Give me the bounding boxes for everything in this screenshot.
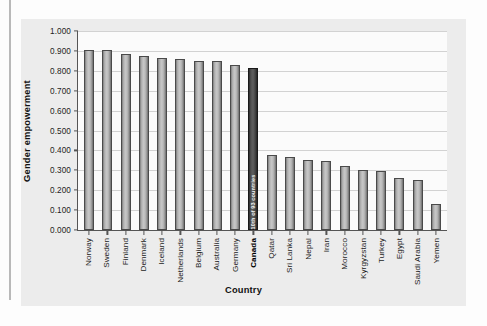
x-axis-tick-mark <box>253 230 254 235</box>
bar-annotation: 10th of 93 countries <box>250 175 256 230</box>
bar-slot <box>80 31 98 230</box>
x-axis-tick-mark <box>344 230 345 235</box>
bar-series: 10th of 93 countries <box>78 31 447 230</box>
y-axis-tick-label: 0.000 <box>50 226 71 235</box>
x-axis-tick-label: Belgium <box>193 238 202 268</box>
bar-slot: 10th of 93 countries <box>244 31 262 230</box>
bar-slot <box>153 31 171 230</box>
x-axis-tick-label: Nepal <box>303 238 312 260</box>
x-axis-tick-mark <box>125 230 126 235</box>
x-axis-tick-mark <box>399 230 400 235</box>
bar <box>285 157 295 230</box>
bar <box>194 61 204 230</box>
x-axis-tick-label: Denmark <box>139 238 148 272</box>
bar-slot <box>317 31 335 230</box>
x-axis-tick-label: Kyrgyzstan <box>358 238 367 279</box>
x-axis-tick-label: Germany <box>230 238 239 272</box>
bar-slot <box>354 31 372 230</box>
bar-highlighted: 10th of 93 countries <box>248 68 258 230</box>
bar <box>175 59 185 230</box>
x-axis-tick-label: Yemen <box>431 238 440 263</box>
y-axis-tick-label: 0.100 <box>50 206 71 215</box>
x-axis-tick-mark <box>162 230 163 235</box>
x-axis-tick-mark <box>198 230 199 235</box>
x-axis-tick-label: Qatar <box>267 238 276 259</box>
bar-slot <box>263 31 281 230</box>
bar <box>157 58 167 230</box>
x-axis-tick-label: Finland <box>120 238 129 265</box>
x-axis-tick-mark <box>362 230 363 235</box>
bar <box>102 50 112 230</box>
bar-slot <box>299 31 317 230</box>
x-axis-tick-label: Netherlands <box>175 238 184 283</box>
page-background: Gender empowerment 1.0000.9000.8000.7000… <box>0 0 487 326</box>
plot-area: 1.0000.9000.8000.7000.6000.5000.4000.300… <box>77 31 447 231</box>
bar <box>394 178 404 230</box>
bar-slot <box>98 31 116 230</box>
bar <box>212 61 222 230</box>
x-axis-tick-mark <box>143 230 144 235</box>
bar <box>340 166 350 230</box>
bar <box>321 161 331 230</box>
bar <box>230 65 240 230</box>
y-axis-tick-label: 0.900 <box>50 46 71 55</box>
plot-wrapper: 1.0000.9000.8000.7000.6000.5000.4000.300… <box>77 31 447 231</box>
bar <box>431 204 441 230</box>
x-axis-tick-mark <box>216 230 217 235</box>
x-axis-tick-mark <box>180 230 181 235</box>
chart-figure: Gender empowerment 1.0000.9000.8000.7000… <box>21 19 466 306</box>
bar-slot <box>226 31 244 230</box>
y-axis-tick-label: 0.600 <box>50 106 71 115</box>
bar-slot <box>281 31 299 230</box>
bar-slot <box>409 31 427 230</box>
x-axis-tick-label: Turkey <box>376 238 385 263</box>
bar-slot <box>135 31 153 230</box>
x-axis-tick-label: Norway <box>84 238 93 266</box>
bar-slot <box>427 31 445 230</box>
bar-slot <box>117 31 135 230</box>
x-axis-tick-mark <box>417 230 418 235</box>
bar <box>121 54 131 231</box>
x-axis-tick-mark <box>235 230 236 235</box>
x-axis-tick-mark <box>326 230 327 235</box>
x-axis-tick-label: Sri Lanka <box>285 238 294 273</box>
x-axis-tick-mark <box>271 230 272 235</box>
bar-slot <box>336 31 354 230</box>
x-axis-tick-label: Egypt <box>395 238 404 259</box>
x-axis-tick-label: Canada <box>248 238 257 268</box>
x-axis-tick-label: Australia <box>212 238 221 270</box>
x-axis-tick-mark <box>107 230 108 235</box>
bar <box>139 56 149 230</box>
x-axis-tick-mark <box>381 230 382 235</box>
bar <box>376 171 386 230</box>
x-axis-tick-label: Iran <box>322 238 331 252</box>
x-axis-tick-mark <box>289 230 290 235</box>
x-axis-tick-label: Saudi Arabia <box>413 238 422 285</box>
x-axis-tick-label: Sweden <box>102 238 111 268</box>
y-axis-tick-label: 0.500 <box>50 126 71 135</box>
bar <box>84 50 94 230</box>
bar-slot <box>190 31 208 230</box>
y-axis-tick-label: 0.200 <box>50 186 71 195</box>
bar <box>358 170 368 230</box>
y-axis-tick-label: 0.700 <box>50 86 71 95</box>
bar-slot <box>390 31 408 230</box>
x-axis-tick-mark <box>308 230 309 235</box>
bar <box>413 180 423 230</box>
y-axis-title: Gender empowerment <box>22 80 32 182</box>
page-left-rule <box>9 0 11 300</box>
bar-slot <box>208 31 226 230</box>
x-axis-tick-mark <box>435 230 436 235</box>
bar-slot <box>171 31 189 230</box>
x-axis-tick-label: Iceland <box>157 238 166 265</box>
y-axis-tick-label: 0.400 <box>50 146 71 155</box>
x-axis-tick-label: Morocco <box>340 238 349 270</box>
x-axis-title: Country <box>21 285 466 295</box>
y-axis-tick-label: 0.800 <box>50 66 71 75</box>
bar <box>303 160 313 230</box>
x-axis-tick-mark <box>89 230 90 235</box>
bar-slot <box>372 31 390 230</box>
bar <box>267 155 277 230</box>
y-axis-tick-label: 1.000 <box>50 27 71 36</box>
y-axis-tick-label: 0.300 <box>50 166 71 175</box>
